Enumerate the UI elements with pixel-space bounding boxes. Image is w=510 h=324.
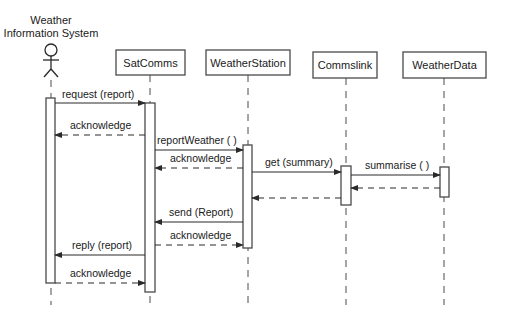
message-call: get (summary) [252,156,341,172]
object-commslink: Commslink [313,52,377,78]
stick-figure-icon [43,44,59,77]
activation-commslink [341,166,351,205]
message-return: acknowledge [155,152,243,168]
object-label: SatComms [123,57,178,69]
message-label: reply (report) [72,239,132,251]
activation-weatherdata [440,167,449,197]
message-return: acknowledge [55,267,145,283]
object-label: WeatherData [412,59,477,71]
message-return: acknowledge [155,229,243,245]
object-satcomms: SatComms [116,50,185,75]
actor-label-line1: Weather [30,14,72,26]
actor-label-line2: Information System [4,27,99,39]
message-label: acknowledge [70,119,131,131]
object-headers: SatCommsWeatherStationCommslinkWeatherDa… [116,50,486,78]
message-label: summarise ( ) [365,159,429,171]
message-label: reportWeather ( ) [157,134,237,146]
activation-actor [46,98,55,283]
sequence-diagram: Weather Information System SatCommsWeath… [0,0,510,324]
message-call: summarise ( ) [351,159,440,175]
message-return: acknowledge [55,119,145,135]
message-label: acknowledge [70,267,131,279]
object-weatherdata: WeatherData [403,52,486,78]
activation-weatherstation [243,145,252,248]
message-label: send (Report) [169,206,233,218]
message-label: acknowledge [170,229,231,241]
message-call: reply (report) [55,239,145,255]
message-call: send (Report) [155,206,243,222]
message-label: get (summary) [265,156,333,168]
object-label: WeatherStation [210,57,286,69]
actor-weather-information-system: Weather Information System [4,14,99,77]
message-label: acknowledge [170,152,231,164]
message-call: request (report) [55,88,145,103]
activation-satcomms [145,103,155,292]
object-label: Commslink [318,59,373,71]
message-label: request (report) [62,88,134,100]
object-weatherstation: WeatherStation [206,50,290,75]
message-call: reportWeather ( ) [155,134,243,150]
